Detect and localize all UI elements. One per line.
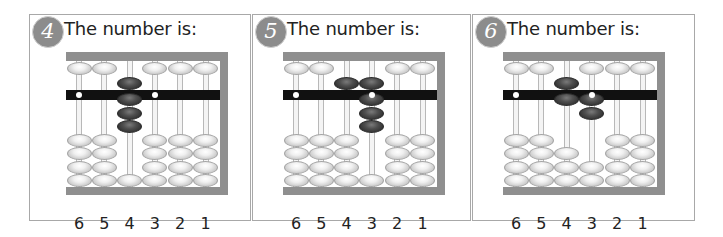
abacus-frame-side [437, 52, 445, 195]
abacus-bead [630, 134, 655, 147]
abacus-bead [67, 174, 92, 187]
abacus-frame-top [66, 52, 228, 61]
abacus-bead [142, 147, 167, 160]
abacus-bead [67, 134, 92, 147]
abacus-bead [284, 134, 309, 147]
abacus-bead [117, 174, 142, 187]
abacus-bead [410, 161, 435, 174]
column-place-label: 1 [413, 214, 433, 233]
abacus-bead [410, 62, 435, 75]
abacus-bead-active [554, 93, 579, 106]
question-number-badge: 4 [32, 16, 64, 48]
abacus-bead [529, 174, 554, 187]
beam-unit-marker [589, 92, 595, 98]
abacus-bead [92, 161, 117, 174]
abacus-bead-active [117, 107, 142, 120]
abacus-bead-active [554, 77, 579, 90]
abacus-bead [410, 134, 435, 147]
column-place-label: 2 [607, 214, 627, 233]
abacus-bead [309, 134, 334, 147]
abacus-bead [193, 161, 218, 174]
abacus-frame-top [503, 52, 665, 61]
abacus-bead [67, 161, 92, 174]
abacus-bead [334, 174, 359, 187]
abacus-bead [168, 134, 193, 147]
abacus-bead [309, 174, 334, 187]
abacus-bead [284, 174, 309, 187]
column-place-label: 3 [362, 214, 382, 233]
question-prompt: The number is: [507, 18, 640, 39]
column-place-label: 4 [557, 214, 577, 233]
abacus-bead [309, 161, 334, 174]
abacus-bead [284, 147, 309, 160]
abacus-beam [66, 90, 220, 100]
abacus-bead [385, 147, 410, 160]
abacus-bead [579, 161, 604, 174]
abacus-bead-active [579, 107, 604, 120]
abacus-bead-active [117, 120, 142, 133]
abacus-frame-side [657, 52, 665, 195]
abacus-bead [504, 134, 529, 147]
question-number-badge: 5 [255, 16, 287, 48]
abacus-frame-bottom [66, 187, 228, 195]
column-place-label: 4 [337, 214, 357, 233]
abacus-bead-active [359, 120, 384, 133]
abacus-bead [504, 174, 529, 187]
abacus-bead [554, 174, 579, 187]
abacus-bead [193, 174, 218, 187]
abacus-bead [410, 147, 435, 160]
abacus-bead [142, 174, 167, 187]
abacus-bead [630, 147, 655, 160]
abacus-bead [334, 147, 359, 160]
abacus-bead [193, 134, 218, 147]
abacus-bead [605, 174, 630, 187]
column-place-label: 3 [145, 214, 165, 233]
abacus-bead [385, 174, 410, 187]
abacus-bead [168, 161, 193, 174]
abacus-bead-active [359, 77, 384, 90]
abacus-bead [630, 161, 655, 174]
abacus-bead [385, 134, 410, 147]
abacus-question-panel-4: 4 The number is: 654321 [29, 14, 251, 221]
beam-unit-marker [76, 92, 82, 98]
abacus-bead-active [334, 77, 359, 90]
abacus-bead [579, 174, 604, 187]
abacus-bead [92, 62, 117, 75]
abacus-bead-active [359, 107, 384, 120]
abacus-bead [385, 161, 410, 174]
abacus-bead [168, 174, 193, 187]
abacus-frame-bottom [283, 187, 445, 195]
abacus-frame-side [220, 52, 228, 195]
abacus-bead [359, 174, 384, 187]
column-place-label: 2 [387, 214, 407, 233]
abacus-bead [309, 147, 334, 160]
abacus-bead [504, 161, 529, 174]
abacus-bead [193, 62, 218, 75]
column-place-label: 6 [506, 214, 526, 233]
abacus-bead [529, 147, 554, 160]
abacus-bead [142, 161, 167, 174]
abacus-bead [334, 134, 359, 147]
abacus-bead [284, 161, 309, 174]
abacus-bead [554, 147, 579, 160]
question-number-badge: 6 [475, 16, 507, 48]
abacus-bead [92, 174, 117, 187]
abacus-bead [529, 161, 554, 174]
column-place-label: 5 [531, 214, 551, 233]
abacus-bead-active [117, 77, 142, 90]
abacus-frame-top [283, 52, 445, 61]
abacus-bead [504, 147, 529, 160]
abacus-question-panel-6: 6 The number is: 654321 [472, 14, 695, 221]
abacus-bead [142, 134, 167, 147]
abacus-bead [284, 62, 309, 75]
abacus-bead [504, 62, 529, 75]
beam-unit-marker [152, 92, 158, 98]
abacus-bead [605, 147, 630, 160]
column-place-label: 4 [120, 214, 140, 233]
abacus-bead [385, 62, 410, 75]
abacus-bead [193, 147, 218, 160]
abacus-bead [630, 174, 655, 187]
abacus-bead [554, 161, 579, 174]
abacus-bead [92, 147, 117, 160]
abacus-bead [529, 134, 554, 147]
